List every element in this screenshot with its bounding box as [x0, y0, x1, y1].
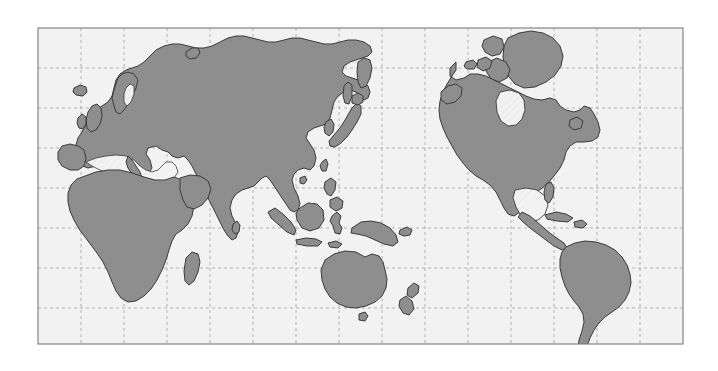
- world-map-figure: [0, 0, 718, 371]
- philippines-south-landmass: [330, 197, 343, 211]
- world-map-canvas: [0, 0, 718, 371]
